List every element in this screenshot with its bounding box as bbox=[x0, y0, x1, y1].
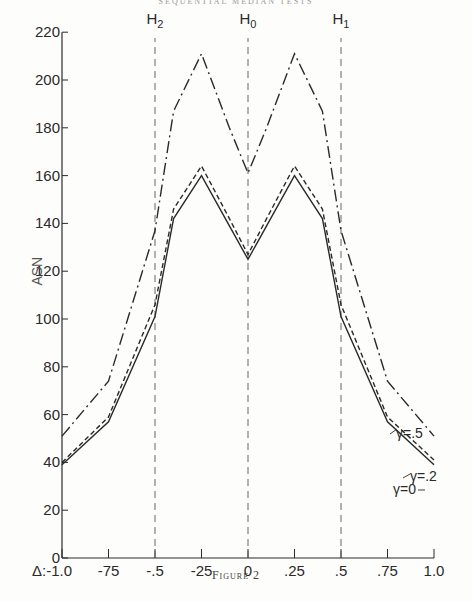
y-tick-label: 140 bbox=[35, 214, 60, 231]
y-tick-label: 200 bbox=[35, 71, 60, 88]
series-label: γ=0 bbox=[393, 481, 416, 497]
y-tick-label: 180 bbox=[35, 119, 60, 136]
y-tick-label: 60 bbox=[43, 406, 60, 423]
y-tick-label: 100 bbox=[35, 310, 60, 327]
series-label: γ=.5 bbox=[396, 425, 423, 441]
y-tick-label: 160 bbox=[35, 167, 60, 184]
asn-chart: 020406080100120140160180200220Δ:-1.0-75-… bbox=[0, 0, 472, 602]
figure-caption: Figure 2 bbox=[0, 568, 472, 583]
y-tick-label: 80 bbox=[43, 358, 60, 375]
series-label-leader bbox=[403, 474, 410, 478]
y-tick-label: 40 bbox=[43, 453, 60, 470]
reference-label-h0: H0 bbox=[240, 10, 257, 30]
y-tick-label: 220 bbox=[35, 23, 60, 40]
y-tick-label: 20 bbox=[43, 501, 60, 518]
reference-label-h1: H1 bbox=[333, 10, 350, 30]
reference-label-h2: H2 bbox=[147, 10, 164, 30]
y-axis-label: ASN bbox=[29, 257, 45, 286]
